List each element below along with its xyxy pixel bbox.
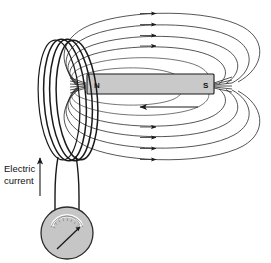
field-line-lower-3	[68, 89, 238, 138]
wire-coil	[34, 38, 101, 163]
pole-flux-strokes-south	[214, 77, 232, 92]
galvanometer	[41, 207, 93, 259]
pole-label-south: S	[203, 81, 209, 90]
diagram-canvas: N S	[0, 0, 271, 263]
bar-magnet: N S	[87, 74, 214, 94]
label-line-2: current	[4, 175, 34, 186]
electric-current-label: Electric current	[4, 163, 35, 186]
induction-diagram: N S	[0, 0, 271, 263]
label-line-1: Electric	[4, 163, 35, 174]
field-line-lower-1	[64, 90, 260, 160]
